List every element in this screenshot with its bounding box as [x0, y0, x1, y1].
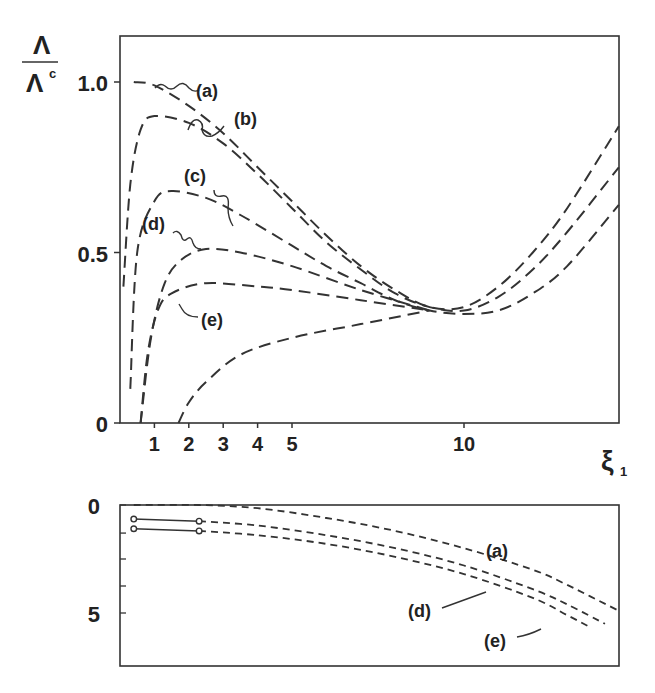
x-tick-label: 1	[149, 433, 160, 455]
label-e: (e)	[201, 310, 223, 330]
solid-segment	[134, 519, 199, 521]
label-b: (b)	[234, 109, 257, 129]
curve-a	[134, 82, 619, 309]
top-x-ticks: 1234510	[149, 423, 475, 455]
x-label: ξ	[601, 445, 614, 476]
top-panel: Λ Λ c 00.51.0 1234510 ξ 1 (a) (b) (c) (d…	[22, 30, 627, 479]
leader-c	[214, 190, 233, 226]
bottom-leader-e	[517, 629, 541, 637]
top-plot-frame	[120, 36, 619, 423]
label-c: (c)	[184, 166, 206, 186]
marker-circle	[196, 518, 202, 524]
y-label-numerator: Λ	[33, 30, 51, 60]
y-tick-label: 0.5	[77, 242, 108, 267]
top-curves	[123, 82, 618, 423]
label-a: (a)	[196, 81, 218, 101]
x-tick-label: 5	[286, 433, 297, 455]
bottom-panel: 05 (a) (d) (e)	[88, 494, 619, 666]
x-tick-label: 4	[252, 433, 264, 455]
bottom-leader-d	[442, 592, 486, 608]
solid-segment	[134, 529, 199, 531]
curve-d	[141, 249, 430, 423]
curve-b	[123, 116, 618, 311]
bottom-curve-a	[134, 505, 619, 611]
top-y-ticks: 00.51.0	[77, 71, 120, 437]
bottom-curve-d	[199, 521, 605, 624]
figure: Λ Λ c 00.51.0 1234510 ξ 1 (a) (b) (c) (d…	[0, 0, 655, 693]
curve-c	[130, 191, 619, 389]
y-tick-label: 0	[96, 412, 108, 437]
label-d: (d)	[142, 214, 165, 234]
leader-e	[179, 304, 198, 317]
x-tick-label: 10	[453, 433, 475, 455]
bottom-label-d: (d)	[408, 601, 431, 621]
y-label-superscript: c	[49, 66, 56, 81]
y-tick-label: 0	[88, 494, 100, 519]
y-tick-label: 1.0	[77, 71, 108, 96]
marker-circle	[196, 528, 202, 534]
bottom-label-a: (a)	[486, 541, 508, 561]
leader-d	[173, 231, 201, 249]
y-label-denominator: Λ	[26, 68, 44, 98]
bottom-curve-e	[199, 531, 588, 626]
marker-circle	[131, 526, 137, 532]
x-tick-label: 2	[183, 433, 194, 455]
bottom-label-e: (e)	[484, 631, 506, 651]
curve-e	[141, 283, 430, 423]
y-tick-label: 5	[88, 602, 100, 627]
bottom-plot-frame	[120, 505, 619, 666]
x-tick-label: 3	[218, 433, 229, 455]
bottom-curves	[131, 505, 619, 626]
x-label-subscript: 1	[620, 464, 627, 479]
marker-circle	[131, 516, 137, 522]
